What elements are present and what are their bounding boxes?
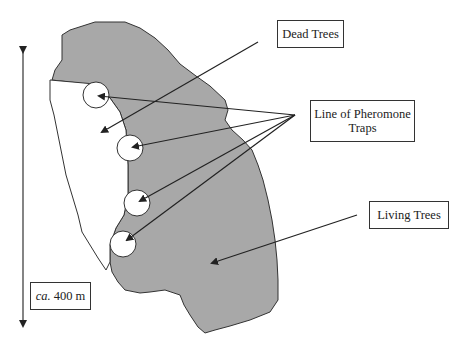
living-trees-label: Living Trees — [369, 201, 449, 229]
scale-label: ca. 400 m — [30, 282, 91, 310]
trap-circle-2 — [117, 135, 143, 161]
trap-circle-4 — [110, 231, 136, 257]
pheromone-traps-label: Line of Pheromone Traps — [310, 100, 415, 142]
trap-circle-3 — [124, 190, 150, 216]
dead-trees-label: Dead Trees — [277, 20, 344, 48]
trap-circle-1 — [83, 82, 109, 108]
